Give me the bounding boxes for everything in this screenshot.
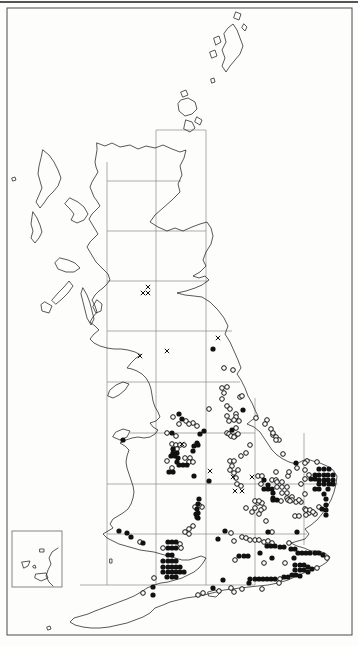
record-open-circle [232,590,237,595]
coastline-island [195,117,202,125]
record-filled-circle [229,427,234,432]
coastline-island [36,150,61,208]
record-open-circle [232,539,237,544]
record-open-circle [237,419,242,424]
record-cross [250,475,254,479]
record-open-circle [299,482,304,487]
record-open-circle [236,468,241,473]
record-open-circle [250,510,255,515]
record-cross [141,291,145,295]
record-filled-circle [173,545,178,550]
record-cross [146,285,150,289]
record-filled-circle [269,555,274,560]
record-filled-circle [294,529,299,534]
record-open-circle [239,454,244,459]
record-open-circle [232,418,237,423]
record-filled-circle [245,553,250,558]
coastline-island [181,90,188,97]
record-open-circle [227,419,232,424]
record-filled-circle [261,477,266,482]
record-filled-circle [116,528,121,533]
record-filled-circle [236,553,241,558]
record-open-circle [207,407,212,412]
record-open-circle [217,589,222,594]
record-open-circle [295,466,300,471]
record-open-circle [222,366,227,371]
coastline-island [55,258,80,272]
record-filled-circle [272,576,277,581]
record-filled-circle [272,543,277,548]
inset-island [22,561,30,568]
record-filled-circle [240,407,245,412]
record-open-circle [303,492,308,497]
record-filled-circle [297,573,302,578]
record-filled-circle [160,564,165,569]
record-open-circle [257,512,262,517]
record-filled-circle [179,416,184,421]
record-filled-circle [292,567,297,572]
record-open-circle [315,566,320,571]
record-open-circle [264,519,269,524]
record-filled-circle [195,442,200,447]
record-open-circle [260,587,265,592]
record-filled-circle [173,539,178,544]
record-open-circle [262,561,267,566]
distribution-map-page [0,0,358,646]
record-cross [216,336,220,340]
record-open-circle [257,499,262,504]
record-open-circle [304,513,309,518]
record-filled-circle [293,460,298,465]
record-filled-circle [305,569,310,574]
record-filled-circle [292,562,297,567]
coastline-island [93,300,102,313]
record-filled-circle [321,481,326,486]
record-open-circle [275,480,280,485]
record-filled-circle [323,496,328,501]
coastline-island [81,288,94,325]
record-open-circle [228,407,233,412]
record-filled-circle [316,472,321,477]
record-filled-circle [330,481,335,486]
record-open-circle [263,422,268,427]
record-open-circle [325,556,330,561]
coastline-island [110,559,112,563]
coastline-island [41,302,52,313]
record-open-circle [285,485,290,490]
record-open-circle [285,491,290,496]
record-cross [240,489,244,493]
record-open-circle [288,499,293,504]
coastline-island [214,36,221,45]
record-open-circle [236,432,241,437]
record-open-circle [183,456,188,461]
record-cross [165,349,169,353]
record-filled-circle [176,411,181,416]
distribution-map-canvas [0,0,358,646]
record-filled-circle [195,501,200,506]
record-filled-circle [169,430,174,435]
record-filled-circle [222,528,227,533]
coastline-island [211,78,215,83]
record-filled-circle [197,431,202,436]
record-open-circle [220,386,225,391]
record-filled-circle [257,550,262,555]
record-filled-circle [196,496,201,501]
record-open-circle [303,468,308,473]
record-open-circle [165,459,170,464]
coastline-island [65,198,88,223]
record-open-circle [174,434,179,439]
record-open-circle [220,397,225,402]
inset-island [33,565,36,568]
record-filled-circle [265,529,270,534]
record-filled-circle [191,473,196,478]
record-open-circle [257,538,262,543]
coastline-island [47,626,51,630]
record-filled-circle [321,466,326,471]
record-filled-circle [270,490,275,495]
coastline-island [178,98,197,116]
record-open-circle [297,514,302,519]
record-open-circle [152,576,157,581]
record-filled-circle [160,558,165,563]
record-filled-circle [173,558,178,563]
record-filled-circle [316,466,321,471]
record-open-circle [195,424,200,429]
